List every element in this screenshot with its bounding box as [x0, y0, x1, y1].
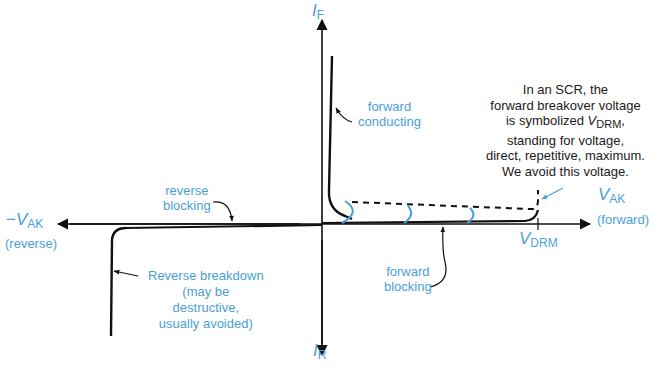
label-forward-conducting: forward conducting [358, 99, 421, 129]
vdrm-note-pointer [542, 188, 563, 199]
vdrm-label: VDRM [519, 230, 558, 252]
reverse-breakdown-curve [111, 228, 126, 336]
scr-characteristic-diagram [0, 0, 663, 371]
label-reverse-breakdown: Reverse breakdown (may be destructive, u… [148, 268, 264, 332]
forward-blocking-pointer [430, 227, 446, 287]
reverse-blocking-pointer [213, 202, 232, 221]
reverse-breakdown-pointer [114, 271, 138, 276]
axis-label-forward-voltage: VAK [598, 186, 625, 208]
label-forward-blocking: forward blocking [384, 264, 432, 294]
axis-label-reverse-voltage: −VAK [6, 211, 43, 233]
forward-blocking-curve [322, 210, 538, 223]
forward-conducting-curve [329, 56, 352, 219]
axis-caption-forward: (forward) [597, 212, 649, 227]
reverse-blocking-curve [125, 225, 322, 228]
axis-caption-reverse: (reverse) [5, 236, 57, 251]
label-reverse-blocking: reverse blocking [163, 183, 211, 213]
breakover-dashed-line [352, 190, 538, 209]
vdrm-explanatory-note: In an SCR, the forward breakover voltage… [486, 82, 645, 179]
gate-arc-2 [404, 206, 411, 223]
forward-conducting-pointer [336, 108, 352, 122]
axis-label-reverse-current: IR [313, 342, 326, 364]
axis-label-forward-current: IF [312, 2, 324, 24]
